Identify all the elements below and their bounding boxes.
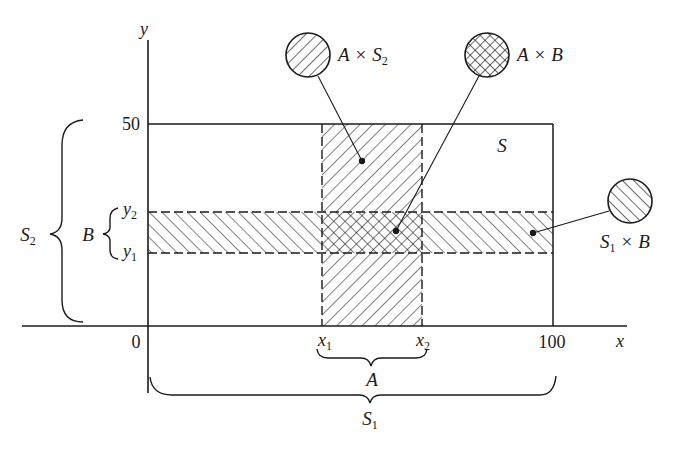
brace-S1	[150, 376, 556, 403]
brace-S2	[50, 120, 83, 322]
y-axis-label: y	[138, 19, 148, 39]
crosshatch-swatch-icon	[465, 33, 509, 77]
brace-B-label: B	[82, 224, 94, 245]
callout-A-x-S2: A×S2	[286, 33, 388, 77]
brace-B	[103, 208, 118, 259]
callout-S1-x-B: S1×B	[600, 179, 652, 255]
y1-label: y1	[121, 241, 137, 264]
brace-A	[317, 349, 427, 366]
brace-A-label: A	[364, 369, 378, 390]
callout-S1-x-B-label: S1×B	[600, 231, 650, 255]
x1-label: x1	[317, 330, 332, 353]
brace-S1-label: S1	[362, 408, 378, 432]
origin-label: 0	[132, 332, 141, 352]
brace-S2-label: S2	[20, 224, 36, 248]
hatch-backslash-swatch-icon	[286, 33, 330, 77]
x2-label: x2	[415, 330, 430, 353]
callout-A-x-B-label: A×B	[515, 44, 563, 65]
cartesian-product-diagram: y x 0 100 50 S x1 x2 y2 y1 S2 B A S1 A×S…	[0, 0, 674, 452]
callout-A-x-B: A×B	[465, 33, 563, 77]
callout-A-x-S2-label: A×S2	[336, 44, 388, 68]
x-max-label: 100	[539, 332, 566, 352]
region-S-label: S	[497, 135, 507, 156]
braces	[50, 120, 556, 403]
y-max-label: 50	[122, 114, 140, 134]
y2-label: y2	[121, 199, 137, 222]
x-axis-label: x	[615, 331, 624, 351]
hatch-slash-swatch-icon	[608, 179, 652, 223]
region-A-x-B	[322, 212, 422, 253]
